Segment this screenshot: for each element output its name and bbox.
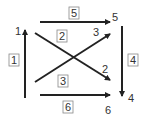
arrow-3-box-label: 3	[60, 75, 66, 87]
arrow-5: 5 5	[40, 7, 118, 23]
arrow-6-end-label: 6	[105, 104, 111, 116]
arrow-3-end-label: 3	[93, 26, 99, 38]
arrow-1: 1 1	[9, 25, 25, 98]
arrow-6-box-label: 6	[65, 101, 71, 113]
arrow-1-box-label: 1	[11, 54, 17, 66]
arrow-diagram: 1 1 5 5 2 2 3 3 4 4 6 6	[0, 0, 144, 122]
arrow-4-box-label: 4	[130, 54, 136, 66]
arrow-2-box-label: 2	[59, 30, 65, 42]
arrow-2-end-label: 2	[102, 63, 108, 75]
arrow-1-end-label: 1	[15, 25, 21, 37]
arrow-5-box-label: 5	[71, 7, 77, 19]
arrow-4: 4 4	[122, 26, 138, 104]
arrow-4-end-label: 4	[128, 92, 134, 104]
arrow-5-end-label: 5	[112, 11, 118, 23]
arrow-6: 6 6	[40, 95, 111, 116]
